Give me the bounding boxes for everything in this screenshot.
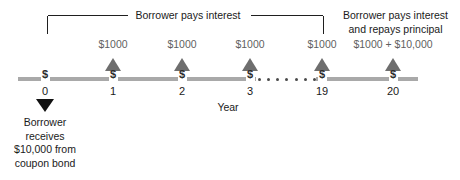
timeline-ellipsis xyxy=(258,76,316,82)
ellipsis-dot xyxy=(276,78,279,81)
bond-receipt-caption-line-3: $10,000 from xyxy=(0,143,105,157)
year-label-1: 1 xyxy=(93,84,133,98)
bracket-label: Borrower pays interest xyxy=(128,9,248,22)
ellipsis-dot xyxy=(267,78,270,81)
year-label-0: 0 xyxy=(25,84,65,98)
final-payment-note: Borrower pays interest and repays princi… xyxy=(333,9,458,36)
axis-title: Year xyxy=(208,101,248,113)
bond-receipt-marker xyxy=(36,99,54,112)
bond-receipt-caption-line-2: receives xyxy=(0,130,105,144)
final-payment-note-line-2: and repays principal xyxy=(333,23,458,37)
timeline-axis xyxy=(18,77,418,81)
dollar-icon-year-2: $ xyxy=(170,68,194,81)
bond-receipt-caption-line-1: Borrower xyxy=(0,116,105,130)
bond-receipt-caption: Borrower receives $10,000 from coupon bo… xyxy=(0,116,105,170)
dollar-icon-year-19: $ xyxy=(310,68,334,81)
dollar-icon-year-1: $ xyxy=(101,68,125,81)
ellipsis-dot xyxy=(295,78,298,81)
year-label-19: 19 xyxy=(302,84,342,98)
payment-amount-year-20: $1000 + $10,000 xyxy=(338,38,448,51)
year-label-3: 3 xyxy=(230,84,270,98)
bracket-top-right-segment xyxy=(251,15,323,16)
dollar-icon-year-20: $ xyxy=(381,68,405,81)
ellipsis-dot xyxy=(304,78,307,81)
year-label-2: 2 xyxy=(162,84,202,98)
bracket-top-left-segment xyxy=(48,15,136,16)
year-label-20: 20 xyxy=(373,84,413,98)
bond-receipt-caption-line-4: coupon bond xyxy=(0,157,105,171)
coupon-bond-timeline-figure: Borrower pays interest Borrower pays int… xyxy=(0,0,460,180)
dollar-icon-year-0: $ xyxy=(33,68,57,81)
final-payment-note-line-1: Borrower pays interest xyxy=(333,9,458,23)
dollar-icon-year-3: $ xyxy=(238,68,262,81)
ellipsis-dot xyxy=(285,78,288,81)
